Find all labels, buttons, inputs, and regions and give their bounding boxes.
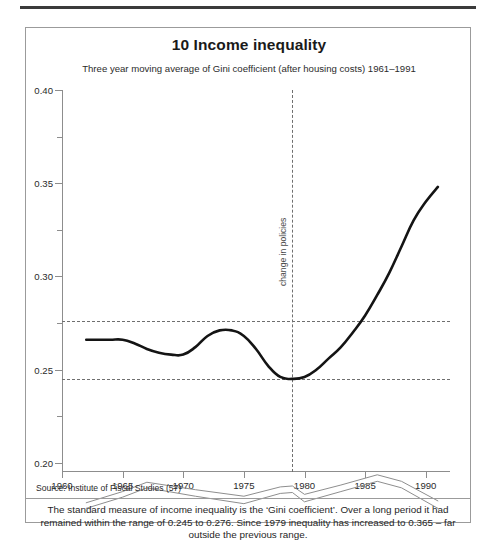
x-axis-label: 1975 xyxy=(233,480,254,491)
data-series-layer xyxy=(62,90,450,472)
x-tick xyxy=(365,472,366,478)
x-tick xyxy=(183,472,184,478)
figure-card: 10 Income inequality Three year moving a… xyxy=(25,27,471,523)
page-title: 10 Income inequality xyxy=(26,36,472,54)
header-rule xyxy=(20,6,476,9)
chart-plot-area: 0.200.250.300.350.4019601965197019751980… xyxy=(62,90,450,472)
y-axis-label: 0.25 xyxy=(34,364,53,375)
y-axis-label: 0.30 xyxy=(34,271,53,282)
y-tick-major xyxy=(55,183,62,184)
y-tick-major xyxy=(55,276,62,277)
y-tick-major xyxy=(55,90,62,91)
series-line-gini xyxy=(86,187,438,379)
x-tick xyxy=(244,472,245,478)
y-axis-label: 0.20 xyxy=(34,457,53,468)
figure-page: 10 Income inequality Three year moving a… xyxy=(0,0,496,541)
x-tick xyxy=(123,472,124,478)
y-axis-label: 0.35 xyxy=(34,178,53,189)
y-tick-major xyxy=(55,370,62,371)
y-axis-label: 0.40 xyxy=(34,85,53,96)
x-tick xyxy=(305,472,306,478)
chart-subtitle: Three year moving average of Gini coeffi… xyxy=(26,63,472,74)
y-tick-major xyxy=(55,463,62,464)
x-axis-label: 1985 xyxy=(354,480,375,491)
source-note: Source: Institute of Fiscal Studies (57) xyxy=(36,483,181,493)
annotation-change-in-policies: change in policies xyxy=(278,218,288,286)
figure-caption: The standard measure of income inequalit… xyxy=(40,504,456,541)
x-tick xyxy=(62,472,63,478)
caption-separator xyxy=(26,498,470,499)
x-axis-label: 1990 xyxy=(415,480,436,491)
x-tick xyxy=(426,472,427,478)
